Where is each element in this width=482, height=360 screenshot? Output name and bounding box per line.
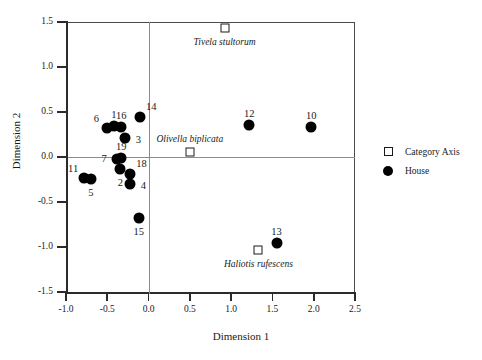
point-label: 3 (136, 134, 141, 145)
y-tick-label: 1.0 (19, 61, 53, 71)
zero-line-vertical (149, 22, 150, 294)
house-marker (125, 179, 136, 190)
y-tick (57, 66, 68, 68)
point-label: 13 (271, 226, 282, 237)
y-tick (57, 201, 68, 203)
x-tick-label: 1.5 (255, 304, 289, 314)
category-marker (254, 245, 263, 254)
x-tick (106, 292, 108, 301)
point-label: 12 (244, 107, 255, 118)
point-label: 14 (146, 101, 157, 112)
x-tick-label: 0.5 (173, 304, 207, 314)
point-label: 5 (88, 186, 93, 197)
y-tick (57, 156, 68, 158)
house-marker (116, 122, 127, 133)
y-axis-title: Dimension 2 (10, 81, 22, 201)
house-marker (116, 152, 127, 163)
house-marker (244, 119, 255, 130)
x-tick-label: 0.0 (132, 304, 166, 314)
legend-key (380, 147, 396, 156)
category-marker (185, 147, 194, 156)
legend-item[interactable]: Category Axis (380, 142, 460, 161)
x-tick (272, 292, 274, 301)
x-tick (230, 292, 232, 301)
x-tick-label: 2.5 (338, 304, 372, 314)
point-label: 7 (102, 152, 107, 163)
house-marker (133, 213, 144, 224)
point-label: 19 (116, 140, 127, 151)
point-label: 10 (306, 110, 317, 121)
y-axis-line (66, 22, 68, 294)
legend-label: Category Axis (405, 147, 460, 157)
legend-key (380, 166, 396, 176)
point-label: 18 (136, 158, 147, 169)
x-axis-line (66, 292, 355, 294)
x-tick (189, 292, 191, 301)
legend-item[interactable]: House (380, 161, 460, 180)
species-label: Haliotis rufescens (224, 259, 293, 269)
house-marker (306, 122, 317, 133)
y-tick (57, 21, 68, 23)
x-tick (313, 292, 315, 301)
y-tick (57, 111, 68, 113)
filled-circle-icon (383, 166, 393, 176)
point-label: 16 (116, 110, 127, 121)
point-label: 2 (118, 176, 123, 187)
open-square-icon (384, 147, 393, 156)
x-axis-title: Dimension 1 (0, 330, 482, 342)
x-tick-label: 2.0 (297, 304, 331, 314)
point-label: 6 (94, 113, 99, 124)
legend: Category AxisHouse (380, 142, 460, 180)
zero-line-horizontal (66, 157, 355, 158)
house-marker (271, 238, 282, 249)
category-marker (220, 24, 229, 33)
point-label: 11 (68, 162, 78, 173)
plot-area: 6116314719211518415121013Tivela stultoru… (66, 22, 355, 294)
x-tick-label: 1.0 (214, 304, 248, 314)
species-label: Tivela stultorum (194, 37, 256, 47)
house-marker (85, 173, 96, 184)
y-tick-label: -1.0 (19, 241, 53, 251)
point-label: 15 (133, 226, 144, 237)
house-marker (135, 112, 146, 123)
y-tick-label: -1.5 (19, 286, 53, 296)
x-tick-label: -1.0 (49, 304, 83, 314)
x-tick (65, 292, 67, 301)
x-tick-label: -0.5 (90, 304, 124, 314)
scatter-plot-figure: 6116314719211518415121013Tivela stultoru… (0, 0, 482, 360)
x-tick (148, 292, 150, 301)
x-tick (354, 292, 356, 301)
y-tick-label: 0.0 (19, 151, 53, 161)
point-label: 4 (141, 180, 146, 191)
y-tick (57, 246, 68, 248)
y-tick-label: -0.5 (19, 196, 53, 206)
y-tick-label: 1.5 (19, 16, 53, 26)
legend-label: House (405, 166, 429, 176)
species-label: Olivella biplicata (156, 134, 223, 144)
y-tick-label: 0.5 (19, 106, 53, 116)
